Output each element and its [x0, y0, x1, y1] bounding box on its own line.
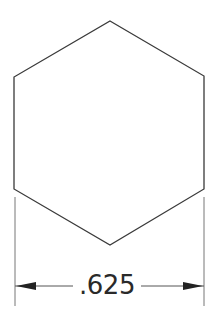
hexagon-outline [14, 21, 204, 245]
dimension-value: .625 [78, 270, 136, 300]
arrowhead-left-icon [16, 282, 36, 290]
arrowhead-right-icon [183, 282, 203, 290]
